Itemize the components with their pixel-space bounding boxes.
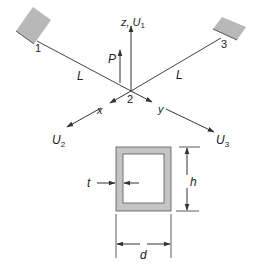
member-1-2-length: L — [77, 69, 84, 83]
u3-arrow — [166, 109, 214, 132]
width-label: d — [140, 248, 147, 262]
x-axis-label: x — [96, 104, 103, 116]
height-label: h — [190, 175, 197, 189]
node-1-label: 1 — [35, 42, 41, 54]
node-2-label: 2 — [127, 93, 133, 105]
z-u1-label: z, U1 — [120, 16, 146, 30]
truss-diagram: 1 2 3 L L P z, U1 x y U2 U3 t h d — [0, 0, 259, 268]
load-p-label: P — [108, 52, 116, 66]
y-axis-arrow — [131, 91, 152, 102]
thickness-label: t — [87, 176, 91, 190]
support-3 — [213, 17, 246, 40]
y-axis-label: y — [157, 103, 165, 115]
member-3-2-length: L — [176, 68, 183, 82]
u2-arrow — [67, 108, 101, 127]
node-3-label: 3 — [221, 38, 227, 50]
member-3-2 — [131, 38, 221, 91]
cross-section — [116, 147, 171, 211]
u2-label: U2 — [52, 133, 66, 149]
member-1-2 — [37, 41, 131, 91]
support-1 — [16, 7, 51, 44]
u3-label: U3 — [216, 133, 230, 149]
